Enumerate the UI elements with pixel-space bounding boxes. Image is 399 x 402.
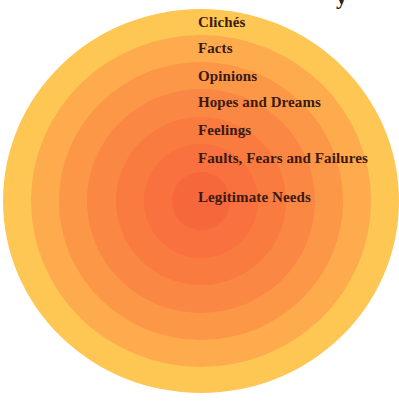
label-facts: Facts xyxy=(198,41,233,56)
label-cliches: Clichés xyxy=(198,15,245,30)
label-feelings: Feelings xyxy=(198,123,251,138)
ring-labels: Clichés Facts Opinions Hopes and Dreams … xyxy=(0,0,399,402)
label-faults-fears-failures: Faults, Fears and Failures xyxy=(198,151,368,166)
label-opinions: Opinions xyxy=(198,69,257,84)
label-hopes-and-dreams: Hopes and Dreams xyxy=(198,95,321,110)
label-legitimate-needs: Legitimate Needs xyxy=(198,190,311,205)
